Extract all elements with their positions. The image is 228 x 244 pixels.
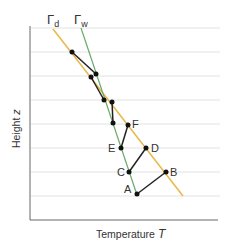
y-axis-label: Height z	[10, 109, 22, 148]
dry-adiabat-label: Γd	[47, 12, 59, 29]
point-label-c: C	[117, 166, 125, 178]
point-label-a: A	[124, 183, 132, 195]
wet-adiabat-label: Γw	[74, 12, 88, 29]
lapse-rate-diagram: A B C D E F Γd Γw Temperature T Height z	[0, 0, 228, 244]
point-label-e: E	[108, 142, 115, 154]
point-label-b: B	[170, 166, 177, 178]
point-label-f: F	[132, 118, 139, 130]
x-axis-label: Temperature T	[96, 227, 167, 241]
gridlines	[31, 28, 220, 196]
point-label-d: D	[151, 142, 159, 154]
